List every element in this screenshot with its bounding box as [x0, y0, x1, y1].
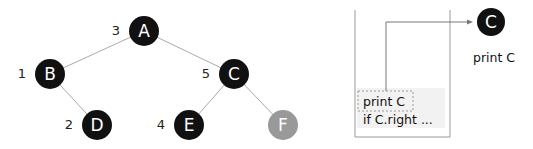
tree-node-C: C5: [202, 59, 249, 89]
call-stack: print C if C.right ...: [355, 10, 450, 137]
node-label: A: [138, 21, 150, 41]
tree-node-D: D2: [65, 110, 112, 140]
visit-order-label: 2: [65, 117, 73, 132]
visit-order-label: 4: [157, 117, 165, 132]
edge-A-B: [50, 31, 144, 74]
stack-frame-line2: if C.right ...: [363, 112, 433, 127]
tree-node-B: B1: [18, 59, 65, 89]
visit-order-label: 1: [18, 66, 26, 81]
tree-node-F: F: [268, 110, 298, 140]
visit-order-label: 5: [202, 66, 210, 81]
tree-node-E: E4: [157, 110, 204, 140]
visit-order-label: 3: [112, 23, 120, 38]
current-caption: print C: [473, 50, 515, 65]
node-label: E: [184, 115, 195, 135]
current-node-label: C: [485, 12, 497, 32]
pointer-arrow: [386, 20, 473, 92]
node-label: F: [278, 115, 288, 135]
traversal-diagram: A3B1C5D2E4F print C if C.right ... C pri…: [0, 0, 533, 149]
tree-node-A: A3: [112, 16, 159, 46]
current-node: C print C: [473, 8, 515, 65]
node-label: C: [228, 64, 240, 84]
stack-frame-line1: print C: [363, 94, 405, 109]
node-label: D: [90, 115, 103, 135]
node-label: B: [44, 64, 56, 84]
tree-nodes: A3B1C5D2E4F: [18, 16, 298, 140]
